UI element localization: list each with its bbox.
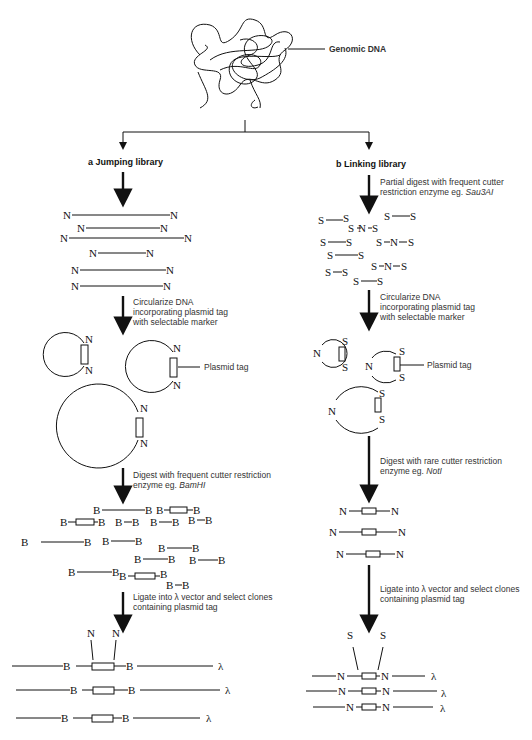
svg-text:N: N xyxy=(339,505,347,517)
svg-text:B: B xyxy=(21,536,28,548)
svg-text:N: N xyxy=(173,342,181,354)
genomic-dna-label: Genomic DNA xyxy=(329,44,386,54)
svg-text:N: N xyxy=(87,627,95,639)
svg-text:N: N xyxy=(140,402,148,414)
svg-text:S: S xyxy=(379,387,385,399)
svg-text:λ: λ xyxy=(225,684,231,696)
jumping-nn-fragments: NN NN NN NN NN NN xyxy=(60,209,192,292)
svg-text:B: B xyxy=(61,712,68,724)
svg-text:N: N xyxy=(63,209,71,221)
svg-text:N: N xyxy=(382,685,390,697)
svg-text:B: B xyxy=(68,566,75,578)
svg-text:S: S xyxy=(320,236,326,248)
svg-text:restriction enzyme eg. Sau3AI: restriction enzyme eg. Sau3AI xyxy=(380,187,494,197)
svg-text:B: B xyxy=(102,535,109,547)
svg-text:S: S xyxy=(347,629,353,641)
svg-text:N: N xyxy=(89,247,97,259)
svg-text:λ: λ xyxy=(441,687,447,699)
svg-text:B: B xyxy=(182,579,189,591)
svg-text:S: S xyxy=(377,275,383,287)
svg-text:N: N xyxy=(71,264,79,276)
svg-text:B: B xyxy=(188,514,195,526)
svg-text:Circularize DNA: Circularize DNA xyxy=(133,297,194,307)
svg-text:S: S xyxy=(342,335,348,347)
svg-text:enzyme eg. BamHI: enzyme eg. BamHI xyxy=(133,480,206,490)
linking-n-fragments: NN NN NN xyxy=(329,505,406,560)
svg-text:λ: λ xyxy=(218,660,224,672)
svg-text:S: S xyxy=(358,249,364,261)
svg-text:N: N xyxy=(112,627,120,639)
svg-text:B: B xyxy=(122,712,129,724)
svg-text:B: B xyxy=(168,553,175,565)
linking-s-fragments: SS SNS SS SS SNS SS SNS SS SS xyxy=(318,210,416,287)
svg-text:S: S xyxy=(410,210,416,222)
svg-text:B: B xyxy=(84,536,91,548)
svg-text:Digest with rare cutter restri: Digest with rare cutter restriction xyxy=(380,456,502,466)
svg-text:B: B xyxy=(150,516,157,528)
svg-text:S: S xyxy=(399,371,405,383)
svg-text:N: N xyxy=(381,670,389,682)
svg-text:with selectable marker: with selectable marker xyxy=(379,312,465,322)
svg-text:N: N xyxy=(173,379,181,391)
svg-text:N: N xyxy=(398,526,406,538)
svg-text:S: S xyxy=(342,266,348,278)
svg-text:Ligate into λ vector and selec: Ligate into λ vector and select clones xyxy=(133,592,272,602)
svg-text:B: B xyxy=(93,504,100,516)
svg-text:S: S xyxy=(372,222,378,234)
svg-text:B: B xyxy=(166,579,173,591)
svg-text:S: S xyxy=(376,236,382,248)
svg-text:enzyme eg. NotI: enzyme eg. NotI xyxy=(380,466,443,476)
svg-text:S: S xyxy=(318,214,324,226)
svg-text:S: S xyxy=(384,210,390,222)
svg-text:containing plasmid tag: containing plasmid tag xyxy=(133,602,218,612)
svg-text:N: N xyxy=(146,247,154,259)
svg-text:B: B xyxy=(135,535,142,547)
svg-text:S: S xyxy=(353,275,359,287)
jumping-b-fragments: BB BB BB BB BB BB BB BB BB BB BB BB BB B… xyxy=(21,504,225,591)
svg-text:B: B xyxy=(145,504,152,516)
jumping-library-title: a Jumping library xyxy=(88,157,163,167)
svg-text:N: N xyxy=(338,685,346,697)
svg-text:λ: λ xyxy=(206,712,212,724)
jumping-lambda-clones: N N BBλ BBλ BBλ xyxy=(12,627,231,724)
svg-text:S: S xyxy=(346,236,352,248)
svg-text:N: N xyxy=(365,360,373,372)
svg-text:N: N xyxy=(396,548,404,560)
svg-text:S: S xyxy=(342,361,348,373)
svg-text:B: B xyxy=(134,553,141,565)
svg-text:N: N xyxy=(390,236,398,248)
svg-text:S: S xyxy=(401,260,407,272)
svg-text:S: S xyxy=(348,222,354,234)
svg-text:S: S xyxy=(408,236,414,248)
svg-text:S: S xyxy=(327,249,333,261)
svg-text:B: B xyxy=(60,516,67,528)
svg-text:B: B xyxy=(158,542,165,554)
svg-text:N: N xyxy=(85,333,93,345)
svg-text:B: B xyxy=(70,684,77,696)
svg-text:S: S xyxy=(379,413,385,425)
svg-text:N: N xyxy=(313,347,321,359)
svg-text:with selectable marker: with selectable marker xyxy=(132,317,218,327)
svg-text:incorporating plasmid tag: incorporating plasmid tag xyxy=(133,307,228,317)
svg-text:N: N xyxy=(384,260,392,272)
svg-text:B: B xyxy=(132,516,139,528)
svg-text:B: B xyxy=(156,504,163,516)
svg-text:N: N xyxy=(382,701,390,713)
linking-circles: N S S N S S Plasmid tag N S S xyxy=(313,335,472,433)
svg-text:B: B xyxy=(98,516,105,528)
svg-text:Digest with frequent cutter re: Digest with frequent cutter restriction xyxy=(133,470,271,480)
svg-text:N: N xyxy=(337,670,345,682)
svg-text:B: B xyxy=(119,570,126,582)
svg-text:λ: λ xyxy=(440,702,446,714)
svg-text:B: B xyxy=(126,660,133,672)
svg-text:Plasmid tag: Plasmid tag xyxy=(204,362,249,372)
svg-text:Ligate into λ vector and selec: Ligate into λ vector and select clones xyxy=(380,584,519,594)
svg-text:N: N xyxy=(163,280,171,292)
svg-text:S: S xyxy=(371,260,377,272)
svg-text:S: S xyxy=(325,266,331,278)
svg-text:λ: λ xyxy=(431,670,437,682)
svg-text:Plasmid tag: Plasmid tag xyxy=(427,360,472,370)
svg-text:B: B xyxy=(172,516,179,528)
svg-text:N: N xyxy=(71,280,79,292)
svg-text:B: B xyxy=(218,554,225,566)
